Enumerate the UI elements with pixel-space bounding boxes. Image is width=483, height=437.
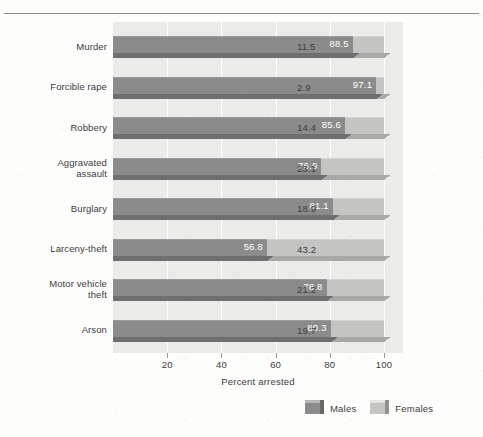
bar-end-cap	[384, 296, 391, 301]
bar-bevel	[327, 296, 334, 301]
stacked-bar[interactable]	[113, 117, 384, 139]
category-label: Arson	[82, 324, 107, 335]
legend-swatch-cube-icon	[305, 400, 324, 416]
x-tick-40	[221, 353, 222, 358]
bar-segment-males-base	[113, 256, 274, 261]
stacked-bar[interactable]	[113, 320, 384, 342]
bar-value-label-females: 19.7	[297, 325, 316, 336]
bar-bevel	[353, 53, 360, 58]
legend-label: Females	[395, 403, 433, 414]
bar-end-cap	[384, 256, 391, 261]
category-label: Larceny-theft	[50, 243, 107, 254]
x-tick-20	[167, 353, 168, 358]
category-label: Murder	[76, 41, 107, 52]
bar-end-cap	[384, 337, 391, 342]
bar-segment-males-base	[113, 337, 338, 342]
category-label: Motor vehicle theft	[49, 278, 107, 300]
stacked-bar[interactable]	[113, 198, 384, 220]
bar-value-label-females: 23.1	[297, 163, 316, 174]
bar-value-label-males: 56.8	[221, 241, 263, 252]
x-tick-label: 60	[270, 359, 281, 370]
bar-segment-males-base	[113, 134, 352, 139]
legend-item[interactable]: Males	[305, 400, 356, 416]
gridline-60	[276, 22, 277, 353]
x-tick-label: 80	[324, 359, 335, 370]
top-horizontal-rule	[4, 13, 479, 14]
bar-bevel	[376, 94, 383, 99]
bar-value-label-females: 11.5	[297, 41, 316, 52]
bar-value-label-females: 43.2	[297, 244, 316, 255]
bar-bevel	[333, 215, 340, 220]
bar-value-label-females: 18.9	[297, 203, 316, 214]
bar-bevel	[331, 337, 338, 342]
x-axis-ticks: 20406080100	[113, 353, 403, 359]
plot-area: 88.597.185.676.981.156.878.880.3	[113, 22, 403, 353]
gridline-40	[221, 22, 222, 353]
bar-segment-males-base	[113, 215, 340, 220]
gridline-100	[384, 22, 385, 353]
bar-value-label-females: 21.2	[297, 284, 316, 295]
bar-end-cap	[384, 215, 391, 220]
x-tick-label: 20	[162, 359, 173, 370]
bar-end-cap	[384, 134, 391, 139]
bar-bevel	[345, 134, 352, 139]
bar-segment-males-base	[113, 175, 328, 180]
stacked-bar[interactable]	[113, 158, 384, 180]
bar-value-label-males: 97.1	[330, 79, 372, 90]
bar-value-label-females: 14.4	[297, 122, 316, 133]
category-label: Aggravated assault	[57, 157, 107, 179]
x-tick-80	[330, 353, 331, 358]
x-axis-title: Percent arrested	[113, 376, 403, 387]
bar-segment-males-base	[113, 296, 334, 301]
bar-segment-males-base	[113, 53, 360, 58]
category-label: Robbery	[70, 122, 107, 133]
legend-swatch-cube-icon	[370, 400, 389, 416]
category-label: Forcible rape	[50, 81, 107, 92]
gridline-80	[330, 22, 331, 353]
legend-item[interactable]: Females	[370, 400, 433, 416]
x-tick-label: 40	[216, 359, 227, 370]
gridline-20	[167, 22, 168, 353]
category-label: Burglary	[71, 203, 107, 214]
chart-legend: MalesFemales	[305, 400, 433, 416]
bar-bevel	[321, 175, 328, 180]
legend-label: Males	[330, 403, 356, 414]
stacked-bar[interactable]	[113, 279, 384, 301]
bar-segment-males-base	[113, 94, 383, 99]
grouped-bar-chart: 88.597.185.676.981.156.878.880.3 MurderF…	[0, 0, 483, 437]
x-tick-60	[276, 353, 277, 358]
x-tick-label: 100	[376, 359, 392, 370]
bar-end-cap	[384, 53, 391, 58]
bar-end-cap	[384, 94, 391, 99]
x-tick-100	[384, 353, 385, 358]
bar-value-label-females: 2.9	[297, 82, 311, 93]
bar-end-cap	[384, 175, 391, 180]
bar-bevel	[267, 256, 274, 261]
